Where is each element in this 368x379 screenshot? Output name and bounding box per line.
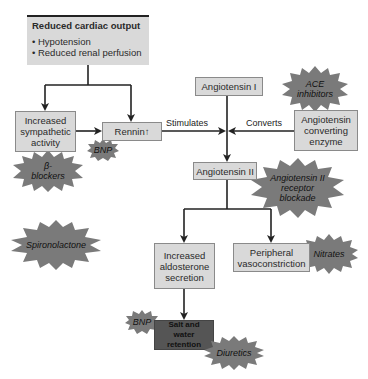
peripheral-vasoconstriction-box: Peripheral vasoconstriction — [233, 243, 310, 272]
increased-sympathetic-activity-box: Increased sympathetic activity — [15, 111, 76, 152]
beta-blockers-starburst: β-blockers — [12, 150, 84, 192]
arb-label: Angiotensin II receptor blockade — [250, 158, 345, 218]
rennin-label: Rennin — [115, 126, 145, 137]
angiotensin-ii-box: Angiotensin II — [193, 162, 257, 180]
angiotensin-i-box: Angiotensin I — [195, 77, 263, 96]
increased-aldosterone-box: Increased aldosterone secretion — [154, 243, 215, 289]
bullet-renal-perfusion: • Reduced renal perfusion — [32, 47, 144, 58]
arb-starburst: Angiotensin II receptor blockade — [250, 158, 345, 218]
beta-blockers-label: β-blockers — [12, 150, 84, 192]
ace-inhibitors-starburst: ACE inhibitors — [282, 66, 348, 112]
ace-inhibitors-label: ACE inhibitors — [282, 66, 348, 112]
increase-arrow-icon: ↑ — [145, 126, 150, 137]
diuretics-label: Diuretics — [204, 336, 264, 370]
converts-label: Converts — [246, 118, 282, 128]
raas-diagram: Reduced cardiac output • Hypotension • R… — [0, 0, 368, 379]
spironolactone-starburst: Spironolactone — [10, 220, 102, 270]
stimulates-label: Stimulates — [166, 118, 208, 128]
bullet-hypotension: • Hypotension — [32, 36, 144, 47]
bnp-top-label: BNP — [87, 139, 119, 161]
diuretics-starburst: Diuretics — [204, 336, 264, 370]
ace-enzyme-box: Angiotensin converting enzyme — [294, 110, 358, 151]
spironolactone-label: Spironolactone — [10, 220, 102, 270]
reduced-cardiac-output-title: Reduced cardiac output — [32, 20, 144, 31]
bnp-top-starburst: BNP — [87, 139, 119, 161]
rennin-box: Rennin↑ — [102, 122, 162, 141]
reduced-cardiac-output-box: Reduced cardiac output • Hypotension • R… — [27, 17, 149, 65]
